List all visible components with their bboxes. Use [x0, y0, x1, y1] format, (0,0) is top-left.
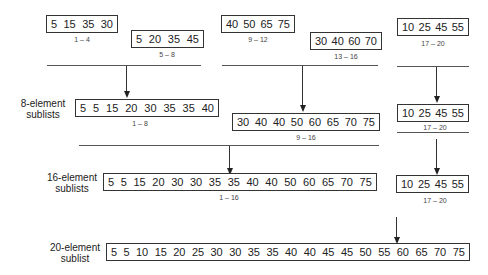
value: 25	[419, 21, 431, 33]
arrow-down-icon	[300, 105, 306, 112]
arrow-shaft	[436, 67, 437, 97]
value: 25	[192, 246, 204, 258]
value: 75	[363, 116, 375, 128]
label-line: 16-element	[42, 172, 102, 183]
value: 25	[418, 178, 430, 190]
value: 50	[284, 176, 296, 188]
value: 40	[226, 18, 238, 30]
value: 60	[348, 35, 360, 47]
value: 20	[152, 176, 164, 188]
range-label: 17 – 20	[415, 124, 455, 131]
value: 70	[365, 35, 377, 47]
value: 5	[124, 246, 130, 258]
value: 75	[360, 176, 372, 188]
value: 70	[345, 116, 357, 128]
value: 35	[183, 102, 195, 114]
value: 65	[327, 116, 339, 128]
value: 55	[452, 107, 464, 119]
value: 65	[261, 18, 273, 30]
value: 35	[82, 18, 94, 30]
value: 65	[415, 246, 427, 258]
value: 20	[173, 246, 185, 258]
value: 20	[125, 102, 137, 114]
value: 35	[228, 176, 240, 188]
row-label-20-element: 20-element sublist	[46, 242, 104, 264]
value: 35	[168, 33, 180, 45]
value: 70	[341, 176, 353, 188]
value: 40	[304, 246, 316, 258]
value: 25	[419, 107, 431, 119]
merge-line	[397, 132, 469, 133]
sublist-1-16: 5 5 15 20 30 30 35 35 40 40 50 60 65 70 …	[103, 173, 377, 191]
arrow-shaft	[229, 146, 230, 170]
sublist-13-16: 30 40 60 70	[310, 32, 382, 50]
value: 15	[64, 18, 76, 30]
value: 40	[332, 35, 344, 47]
value: 55	[378, 246, 390, 258]
arrow-shaft	[396, 217, 397, 239]
sublist-9-16: 30 40 40 50 60 65 70 75	[232, 113, 380, 131]
label-line: sublists	[14, 109, 72, 120]
value: 35	[163, 102, 175, 114]
arrow-down-icon	[124, 91, 130, 98]
sublist-1-20: 5 5 10 15 20 25 30 30 35 35 40 40 45 45 …	[106, 243, 470, 261]
value: 45	[435, 21, 447, 33]
label-line: sublists	[42, 183, 102, 194]
value: 60	[309, 116, 321, 128]
merge-line	[222, 65, 378, 66]
sublist-1-8: 5 5 15 20 30 35 35 40	[75, 99, 219, 117]
value: 45	[435, 107, 447, 119]
range-label: 1 – 8	[120, 120, 160, 127]
value: 15	[133, 176, 145, 188]
value: 15	[106, 102, 118, 114]
value: 35	[209, 176, 221, 188]
value: 5	[108, 176, 114, 188]
value: 75	[278, 18, 290, 30]
range-label: 17 – 20	[413, 40, 453, 47]
label-line: sublist	[46, 253, 104, 264]
sublist-17-20: 10 25 45 55	[397, 18, 469, 36]
range-label: 1 – 4	[62, 36, 102, 43]
range-label: 9 – 12	[238, 36, 278, 43]
value: 45	[341, 246, 353, 258]
sublist-17-20: 10 25 45 55	[396, 175, 469, 193]
row-label-16-element: 16-element sublists	[42, 172, 102, 194]
value: 40	[255, 116, 267, 128]
value: 30	[237, 116, 249, 128]
value: 40	[265, 176, 277, 188]
sublist-9-12: 40 50 65 75	[221, 15, 295, 33]
value: 45	[187, 33, 199, 45]
value: 50	[360, 246, 372, 258]
value: 5	[136, 33, 142, 45]
label-line: 20-element	[46, 242, 104, 253]
value: 15	[155, 246, 167, 258]
value: 30	[211, 246, 223, 258]
value: 10	[402, 21, 414, 33]
value: 40	[202, 102, 214, 114]
value: 5	[121, 176, 127, 188]
arrow-down-icon	[434, 168, 440, 175]
value: 30	[144, 102, 156, 114]
value: 40	[285, 246, 297, 258]
range-label: 1 – 16	[209, 194, 249, 201]
value: 60	[397, 246, 409, 258]
value: 30	[315, 35, 327, 47]
label-line: 8-element	[14, 98, 72, 109]
value: 10	[136, 246, 148, 258]
value: 45	[322, 246, 334, 258]
range-label: 5 – 8	[147, 51, 187, 58]
value: 75	[453, 246, 465, 258]
value: 65	[322, 176, 334, 188]
value: 55	[452, 178, 464, 190]
value: 30	[229, 246, 241, 258]
value: 60	[303, 176, 315, 188]
value: 50	[291, 116, 303, 128]
value: 30	[171, 176, 183, 188]
range-label: 13 – 16	[326, 53, 366, 60]
sublist-1-4: 5 15 35 30	[46, 15, 118, 33]
sublist-5-8: 5 20 35 45	[131, 30, 204, 48]
value: 55	[452, 21, 464, 33]
value: 45	[435, 178, 447, 190]
value: 5	[80, 102, 86, 114]
value: 5	[111, 246, 117, 258]
